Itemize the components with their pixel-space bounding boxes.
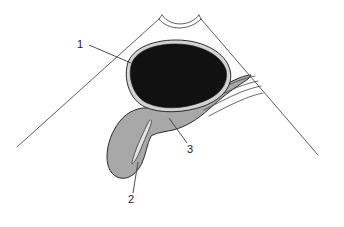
diagram-canvas: 1 2 3 [0, 0, 344, 227]
anatomical-figure: 1 2 3 [0, 0, 344, 227]
dark-organ-group [126, 40, 231, 112]
callout-label-3: 3 [187, 143, 193, 155]
callout-label-1: 1 [77, 38, 83, 50]
callout-label-2: 2 [128, 193, 134, 205]
